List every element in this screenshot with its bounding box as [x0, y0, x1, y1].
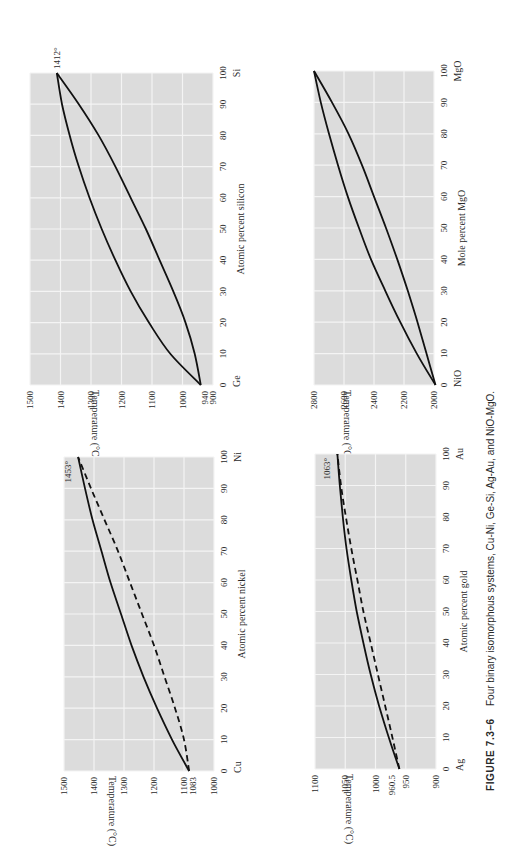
caption-label: FIGURE 7.3–6	[485, 718, 496, 791]
composition-tick-label: 0	[218, 382, 228, 387]
composition-tick-label: 10	[439, 349, 449, 359]
melting-point-annotation: 1063°	[322, 458, 332, 480]
composition-tick-label: 20	[219, 703, 229, 713]
composition-axis-label: Atomic percent nickel	[236, 569, 247, 658]
composition-tick-label: 80	[218, 130, 228, 140]
composition-tick-label: 20	[441, 701, 451, 711]
phase-diagram-figure: 9001000110012001300140015009400102030405…	[0, 0, 508, 846]
temperature-tick-label: 1500	[25, 391, 35, 410]
composition-tick-label: 40	[439, 254, 449, 264]
composition-tick-label: 30	[441, 670, 451, 680]
temperature-tick-label: 1400	[89, 777, 99, 796]
temperature-tick-label: 2000	[429, 391, 439, 410]
temperature-axis-label: Temperature (°C)	[89, 390, 101, 460]
composition-tick-label: 70	[218, 162, 228, 172]
composition-tick-label: 20	[439, 317, 449, 327]
temperature-tick-label: 1000	[178, 391, 188, 410]
temperature-tick-label: 2800	[309, 391, 319, 410]
panel-ge-si: 9001000110012001300140015009400102030405…	[25, 47, 246, 460]
composition-axis-label: Atomic percent silicon	[235, 183, 246, 274]
left-element-label: Ge	[231, 375, 242, 387]
temperature-tick-label: 1100	[310, 775, 320, 793]
composition-tick-label: 90	[441, 481, 451, 491]
panel-cu-ni: 1000110012001300140015001083010203040506…	[59, 450, 247, 846]
caption-text: Four binary isomorphous systems, Cu-Ni, …	[485, 391, 496, 706]
composition-tick-label: 70	[441, 544, 451, 554]
temperature-tick-label: 1200	[149, 777, 159, 796]
temperature-axis-label: Temperature (°C)	[341, 390, 353, 460]
composition-tick-label: 50	[441, 607, 451, 617]
composition-tick-label: 70	[439, 160, 449, 170]
composition-tick-label: 30	[439, 286, 449, 296]
left-element-label: NiO	[452, 370, 463, 387]
panel-nio-mgo: 2000220024002600280001020304050607080901…	[309, 60, 467, 460]
composition-tick-label: 20	[218, 318, 228, 328]
composition-tick-label: 50	[219, 609, 229, 619]
temperature-tick-label: 1200	[117, 391, 127, 410]
composition-tick-label: 80	[219, 515, 229, 525]
composition-tick-label: 90	[218, 99, 228, 109]
composition-tick-label: 90	[439, 97, 449, 107]
right-element-label: Au	[454, 448, 465, 460]
melting-point-annotation: 1412°	[52, 47, 62, 69]
composition-tick-label: 10	[219, 735, 229, 745]
composition-tick-label: 40	[219, 640, 229, 650]
annotations: 1063°	[322, 458, 332, 480]
composition-tick-label: 90	[219, 483, 229, 493]
composition-tick-label: 100	[441, 447, 451, 461]
annotations: 1412°	[52, 47, 62, 69]
right-element-label: Si	[231, 69, 242, 78]
composition-tick-label: 100	[439, 64, 449, 78]
composition-axis-label: Atomic percent gold	[458, 570, 469, 652]
composition-tick-label: 70	[219, 546, 229, 556]
melting-point-tick-label: 1083	[188, 777, 198, 796]
temperature-axis-label: Temperature (°C)	[106, 776, 118, 846]
temperature-tick-label: 1300	[119, 777, 129, 796]
composition-tick-label: 60	[219, 578, 229, 588]
right-element-label: Ni	[232, 452, 243, 462]
composition-tick-label: 40	[218, 255, 228, 265]
composition-tick-label: 60	[218, 193, 228, 203]
temperature-tick-label: 1100	[147, 391, 157, 409]
composition-tick-label: 0	[441, 766, 451, 771]
figure-caption: FIGURE 7.3–6 Four binary isomorphous sys…	[485, 391, 496, 791]
panel-ag-au: 900950100010501100960.501020304050607080…	[310, 447, 469, 844]
right-element-label: MgO	[452, 60, 463, 81]
temperature-tick-label: 1000	[371, 775, 381, 794]
composition-tick-label: 60	[441, 575, 451, 585]
composition-tick-label: 0	[439, 382, 449, 387]
composition-tick-label: 10	[441, 733, 451, 743]
composition-tick-label: 80	[439, 129, 449, 139]
temperature-tick-label: 950	[401, 775, 411, 789]
composition-tick-label: 50	[218, 224, 228, 234]
melting-point-tick-label: 960.5	[387, 775, 397, 796]
temperature-tick-label: 900	[431, 775, 441, 789]
melting-point-annotation: 1453°	[63, 461, 73, 483]
composition-axis-label: Mole percent MgO	[456, 190, 467, 267]
left-element-label: Ag	[454, 759, 465, 771]
temperature-tick-label: 2200	[399, 391, 409, 410]
temperature-tick-label: 1000	[209, 777, 219, 796]
composition-tick-label: 80	[441, 512, 451, 522]
temperature-tick-label: 1400	[56, 391, 66, 410]
composition-tick-label: 50	[439, 223, 449, 233]
left-element-label: Cu	[232, 761, 243, 773]
composition-tick-label: 40	[441, 638, 451, 648]
temperature-axis-label: Temperature (°C)	[343, 774, 355, 844]
composition-tick-label: 30	[219, 672, 229, 682]
temperature-tick-label: 1500	[59, 777, 69, 796]
composition-tick-label: 100	[218, 66, 228, 80]
melting-point-tick-label: 940	[200, 391, 210, 405]
annotations: 1453°	[63, 461, 73, 483]
composition-tick-label: 100	[219, 450, 229, 464]
composition-tick-label: 0	[219, 768, 229, 773]
composition-tick-label: 10	[218, 349, 228, 359]
composition-tick-label: 60	[439, 192, 449, 202]
composition-tick-label: 30	[218, 286, 228, 296]
temperature-tick-label: 2400	[369, 391, 379, 410]
